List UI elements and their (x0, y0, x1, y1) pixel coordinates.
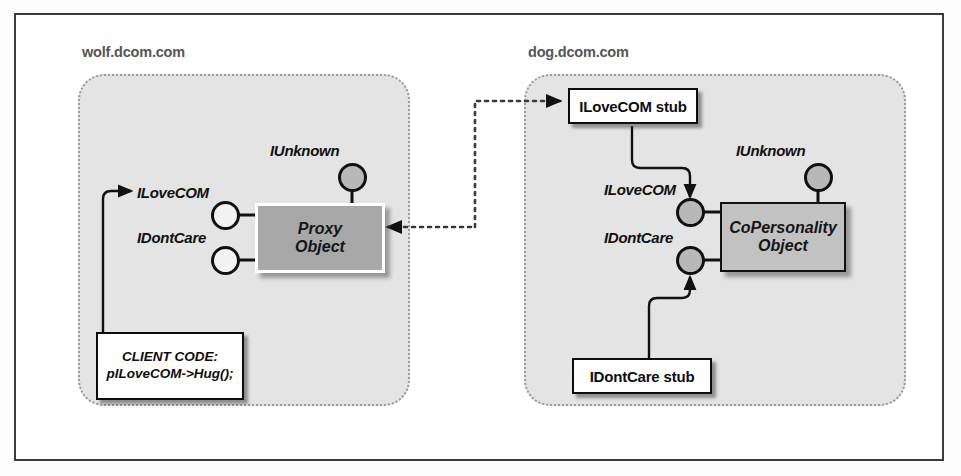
lollipop-idontcare-right (676, 246, 705, 275)
diagram-canvas: wolf.dcom.com dog.dcom.com IUnk (0, 0, 961, 476)
ilovecom-stub-box: ILoveCOM stub (568, 88, 698, 124)
lollipop-iunknown-left (338, 163, 367, 192)
idontcare-stub-box: IDontCare stub (572, 358, 712, 394)
client-code-line1: CLIENT CODE: (122, 349, 218, 366)
label-iunknown-left: IUnknown (270, 142, 339, 159)
lollipop-ilovecom-left (211, 201, 240, 230)
label-idontcare-left: IDontCare (137, 229, 206, 246)
copersonality-object-line2: Object (758, 237, 808, 255)
proxy-object-line2: Object (295, 238, 345, 256)
lollipop-ilovecom-right (676, 198, 705, 227)
label-iunknown-right: IUnknown (736, 142, 805, 159)
host-label-dog: dog.dcom.com (528, 44, 629, 60)
copersonality-object-box: CoPersonality Object (720, 202, 846, 272)
proxy-object-line1: Proxy (298, 220, 342, 238)
lollipop-iunknown-right (804, 163, 833, 192)
copersonality-object-line1: CoPersonality (729, 219, 837, 237)
proxy-object-box: Proxy Object (255, 203, 385, 273)
label-idontcare-right: IDontCare (604, 229, 673, 246)
label-ilovecom-left: ILoveCOM (137, 184, 209, 201)
client-code-line2: pILoveCOM->Hug(); (106, 366, 233, 383)
host-label-wolf: wolf.dcom.com (82, 44, 185, 60)
lollipop-idontcare-left (211, 246, 240, 275)
label-ilovecom-right: ILoveCOM (604, 181, 676, 198)
client-code-box: CLIENT CODE: pILoveCOM->Hug(); (96, 332, 244, 400)
